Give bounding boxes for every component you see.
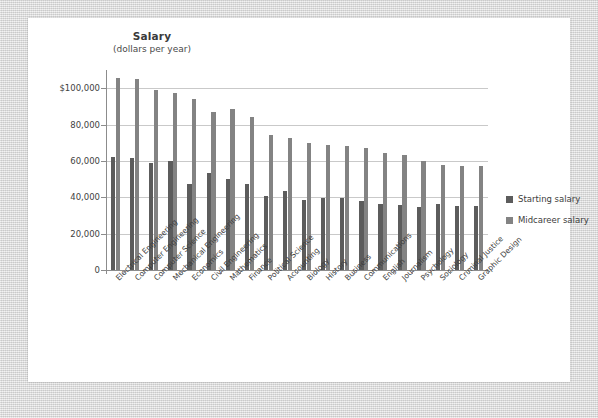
y-axis-tick-label: 20,000 [38,229,100,239]
bar-starting-salary [130,158,134,270]
bar-midcareer-salary [135,79,139,270]
bar-midcareer-salary [116,78,120,270]
x-axis-tick [450,270,451,274]
x-axis-tick [335,270,336,274]
y-axis-tick-labels: $100,00080,00060,00040,00020,0000 [36,18,100,418]
x-axis-tick [393,270,394,274]
x-axis-tick [144,270,145,274]
x-axis-tick [106,270,107,274]
chart-legend: Starting salaryMidcareer salary [506,194,589,236]
x-axis-tick [488,270,489,274]
legend-swatch-icon [506,196,513,203]
y-axis-tick-label: 60,000 [38,156,100,166]
legend-label: Midcareer salary [518,215,589,225]
x-axis-tick [182,270,183,274]
bar-midcareer-salary [230,109,234,270]
x-axis-tick [202,270,203,274]
x-axis-tick [259,270,260,274]
x-axis-tick [125,270,126,274]
x-axis-tick [373,270,374,274]
bar-midcareer-salary [269,135,273,270]
y-axis-tick-label: 0 [38,265,100,275]
x-axis-tick [431,270,432,274]
x-axis-tick [240,270,241,274]
x-axis-tick [221,270,222,274]
x-axis-tick [412,270,413,274]
bar-starting-salary [111,157,115,270]
x-axis-tick [316,270,317,274]
bar-midcareer-salary [326,145,330,270]
legend-label: Starting salary [518,194,580,204]
y-axis-tick-label: 80,000 [38,120,100,130]
legend-item[interactable]: Midcareer salary [506,215,589,225]
legend-item[interactable]: Starting salary [506,194,589,204]
x-axis-tick [278,270,279,274]
bar-midcareer-salary [402,155,406,270]
bar-starting-salary [149,163,153,270]
chart-card: Salary (dollars per year) $100,00080,000… [28,18,570,382]
y-axis-tick-label: $100,000 [38,83,100,93]
legend-swatch-icon [506,217,513,224]
bar-midcareer-salary [345,146,349,270]
bar-starting-salary [168,161,172,270]
x-axis-tick [163,270,164,274]
x-axis-tick [469,270,470,274]
x-axis-tick [297,270,298,274]
y-axis-tick-label: 40,000 [38,192,100,202]
plot-area [106,70,488,270]
x-axis-tick [354,270,355,274]
